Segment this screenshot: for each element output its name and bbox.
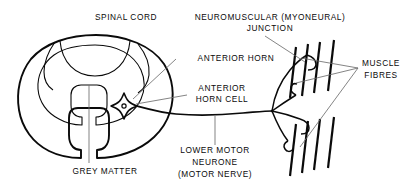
label-anterior-horn-cell-line1: ANTERIOR bbox=[198, 83, 245, 94]
muscle-fibre bbox=[328, 40, 334, 91]
label-muscle-fibres-line1: MUSCLE bbox=[362, 58, 400, 69]
label-grey-matter: GREY MATTER bbox=[72, 166, 137, 177]
label-anterior-horn: ANTERIOR HORN bbox=[198, 53, 275, 64]
label-lower-motor-neurone-line2: NEURONE bbox=[192, 157, 237, 168]
posterior-horn-left bbox=[44, 42, 55, 90]
neuromuscular-junction-lower-left bbox=[284, 141, 292, 151]
axon-branch-upper bbox=[272, 55, 307, 111]
leader-muscle-fibres-1 bbox=[301, 58, 358, 68]
muscle-fibre bbox=[302, 44, 308, 96]
label-spinal-cord: SPINAL CORD bbox=[95, 12, 157, 23]
label-muscle-fibres-line2: FIBRES bbox=[364, 70, 397, 81]
label-neuromuscular-junction-line1: NEUROMUSCULAR (MYONEURAL) bbox=[195, 12, 346, 23]
muscle-fibre bbox=[302, 121, 308, 173]
horn-cell-nucleus bbox=[122, 104, 126, 108]
neuromuscular-junction-upper bbox=[307, 55, 316, 70]
label-lower-motor-neurone-line3: (MOTOR NERVE) bbox=[178, 169, 252, 180]
muscle-fibre bbox=[328, 117, 334, 168]
label-neuromuscular-junction-line2: JUNCTION bbox=[247, 23, 293, 34]
leader-anterior-horn bbox=[133, 59, 176, 99]
anterior-horn-cell bbox=[111, 93, 137, 119]
grey-matter-outline bbox=[38, 45, 144, 125]
axon-branch-lower bbox=[272, 111, 288, 141]
axon-lower-motor-neurone bbox=[137, 106, 272, 115]
label-lower-motor-neurone-line1: LOWER MOTOR bbox=[180, 145, 250, 156]
spinal-cord-outline bbox=[18, 35, 173, 158]
anatomy-figure: SPINAL CORD NEUROMUSCULAR (MYONEURAL) JU… bbox=[0, 0, 412, 191]
muscle-fibre-bundle-lower bbox=[290, 117, 334, 176]
label-anterior-horn-cell-line2: HORN CELL bbox=[196, 94, 248, 105]
dorsal-sulcus-arc bbox=[60, 41, 130, 76]
leader-anterior-horn-cell bbox=[136, 95, 187, 104]
axon-branch-lower-secondary bbox=[272, 111, 300, 119]
